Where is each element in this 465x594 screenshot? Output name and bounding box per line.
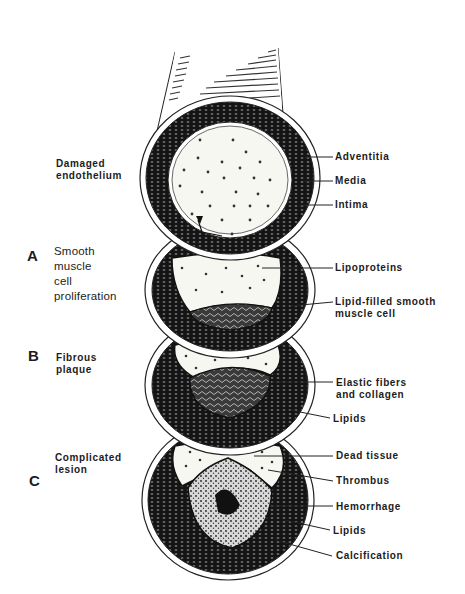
label-complicated-lesion: Complicated lesion <box>55 452 122 476</box>
cross-section-damaged-endothelium <box>140 96 320 260</box>
stage-letter-c: C <box>29 472 40 489</box>
label-calcification: Calcification <box>336 550 403 562</box>
stage-letter-b: B <box>28 347 39 364</box>
label-lipids-stage-b: Lipids <box>333 413 366 425</box>
label-elastic-fibers-collagen: Elastic fibers and collagen <box>336 377 407 401</box>
label-lipoproteins: Lipoproteins <box>335 262 403 274</box>
label-hemorrhage: Hemorrhage <box>336 501 401 513</box>
label-damaged-endothelium: Damaged endothelium <box>56 158 122 182</box>
stage-letter-a: A <box>27 247 38 264</box>
label-intima: Intima <box>335 199 368 211</box>
label-thrombus: Thrombus <box>336 475 390 487</box>
label-smooth-muscle-proliferation: Smooth muscle cell proliferation <box>54 244 117 304</box>
label-lipids-stage-c: Lipids <box>333 525 366 537</box>
label-dead-tissue: Dead tissue <box>336 450 399 462</box>
label-lipid-filled-smooth-muscle-cell: Lipid-filled smooth muscle cell <box>335 296 436 320</box>
label-adventitia: Adventitia <box>335 151 389 163</box>
label-fibrous-plaque: Fibrous plaque <box>56 352 97 376</box>
label-media: Media <box>335 175 366 187</box>
